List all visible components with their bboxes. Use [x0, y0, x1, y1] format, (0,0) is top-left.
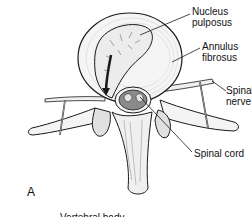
- cutoff-caption: Vertebral body: [60, 212, 125, 217]
- vertebra-diagram: [0, 0, 252, 217]
- spinous-process: [112, 112, 152, 194]
- label-spinal-nerve: Spinal nerve: [226, 85, 252, 107]
- label-nucleus-pulposus: Nucleus pulposus: [192, 6, 232, 28]
- panel-letter: A: [27, 185, 35, 199]
- left-spinal-nerve: [45, 97, 105, 102]
- label-spinal-cord: Spinal cord: [194, 148, 244, 159]
- left-transverse-process: [28, 108, 100, 135]
- left-lamina: [92, 108, 110, 136]
- label-annulus-fibrosus: Annulus fibrosus: [202, 41, 238, 63]
